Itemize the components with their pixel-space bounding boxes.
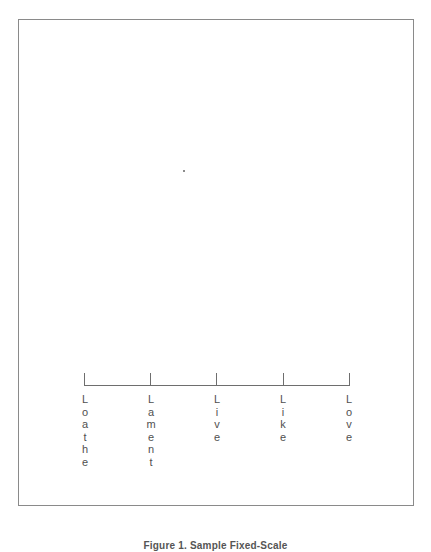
label-letter: v (210, 418, 224, 431)
label-letter: L (342, 393, 356, 406)
scale-axis-line (84, 385, 350, 386)
label-letter: o (78, 406, 92, 419)
scale-tick-loathe (84, 373, 85, 386)
scale-tick-like (283, 373, 284, 386)
label-letter: e (342, 431, 356, 444)
label-letter: i (210, 406, 224, 419)
scale-label-like: Like (276, 393, 290, 443)
label-letter: L (276, 393, 290, 406)
label-letter: h (78, 443, 92, 456)
label-letter: t (144, 456, 158, 469)
label-letter: m (144, 418, 158, 431)
label-letter: v (342, 418, 356, 431)
label-letter: a (144, 406, 158, 419)
label-letter: e (276, 431, 290, 444)
label-letter: L (144, 393, 158, 406)
label-letter: n (144, 443, 158, 456)
label-letter: e (78, 456, 92, 469)
scale-tick-lament (150, 373, 151, 386)
scale-label-live: Live (210, 393, 224, 443)
stray-mark (183, 170, 185, 172)
label-letter: L (210, 393, 224, 406)
label-letter: e (144, 431, 158, 444)
scale-tick-live (216, 373, 217, 386)
label-letter: a (78, 418, 92, 431)
label-letter: o (342, 406, 356, 419)
label-letter: t (78, 431, 92, 444)
label-letter: e (210, 431, 224, 444)
scale-label-lament: Lament (144, 393, 158, 469)
label-letter: k (276, 418, 290, 431)
figure-caption: Figure 1. Sample Fixed-Scale (0, 540, 431, 551)
scale-tick-love (349, 373, 350, 386)
scale-label-loathe: Loathe (78, 393, 92, 469)
scale-label-love: Love (342, 393, 356, 443)
label-letter: L (78, 393, 92, 406)
label-letter: i (276, 406, 290, 419)
